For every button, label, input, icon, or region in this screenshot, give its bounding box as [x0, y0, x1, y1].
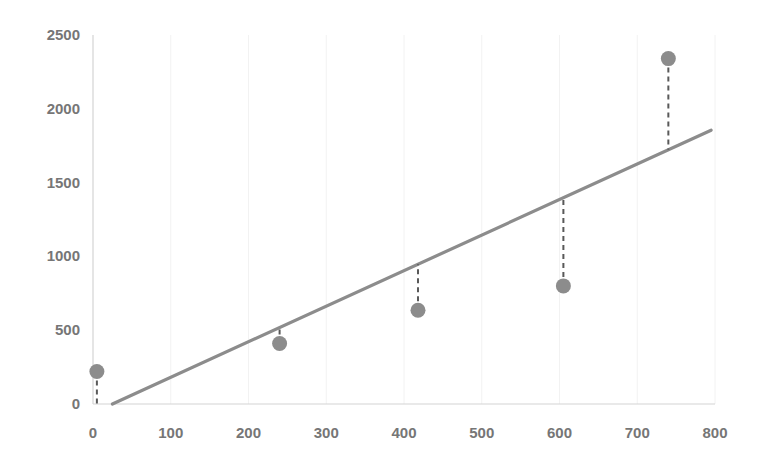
- y-axis-tick-label: 2500: [47, 26, 80, 43]
- x-axis-tick-labels: 0100200300400500600700800: [89, 424, 728, 441]
- y-axis-tick-label: 1000: [47, 247, 80, 264]
- scatter-chart: 05001000150020002500 0100200300400500600…: [0, 0, 757, 468]
- y-axis-tick-label: 2000: [47, 100, 80, 117]
- x-axis-tick-label: 0: [89, 424, 97, 441]
- regression-line-group: [112, 130, 711, 404]
- data-point: [661, 51, 676, 66]
- x-axis-tick-label: 400: [391, 424, 416, 441]
- x-axis-tick-label: 600: [547, 424, 572, 441]
- regression-line: [112, 130, 711, 404]
- data-point: [272, 336, 287, 351]
- chart-container: 05001000150020002500 0100200300400500600…: [0, 0, 757, 468]
- data-point: [556, 278, 571, 293]
- y-axis-tick-label: 500: [55, 321, 80, 338]
- x-axis-tick-label: 800: [702, 424, 727, 441]
- x-axis-tick-label: 300: [314, 424, 339, 441]
- y-axis-tick-label: 0: [72, 395, 80, 412]
- data-point: [89, 364, 104, 379]
- data-point: [410, 303, 425, 318]
- x-axis-tick-label: 500: [469, 424, 494, 441]
- data-points-group: [89, 51, 675, 379]
- y-axis-tick-labels: 05001000150020002500: [47, 26, 80, 412]
- x-axis-tick-label: 100: [158, 424, 183, 441]
- gridlines-group: [171, 35, 715, 404]
- x-axis-tick-label: 700: [625, 424, 650, 441]
- y-axis-tick-label: 1500: [47, 174, 80, 191]
- x-axis-tick-label: 200: [236, 424, 261, 441]
- residual-lines-group: [97, 59, 668, 404]
